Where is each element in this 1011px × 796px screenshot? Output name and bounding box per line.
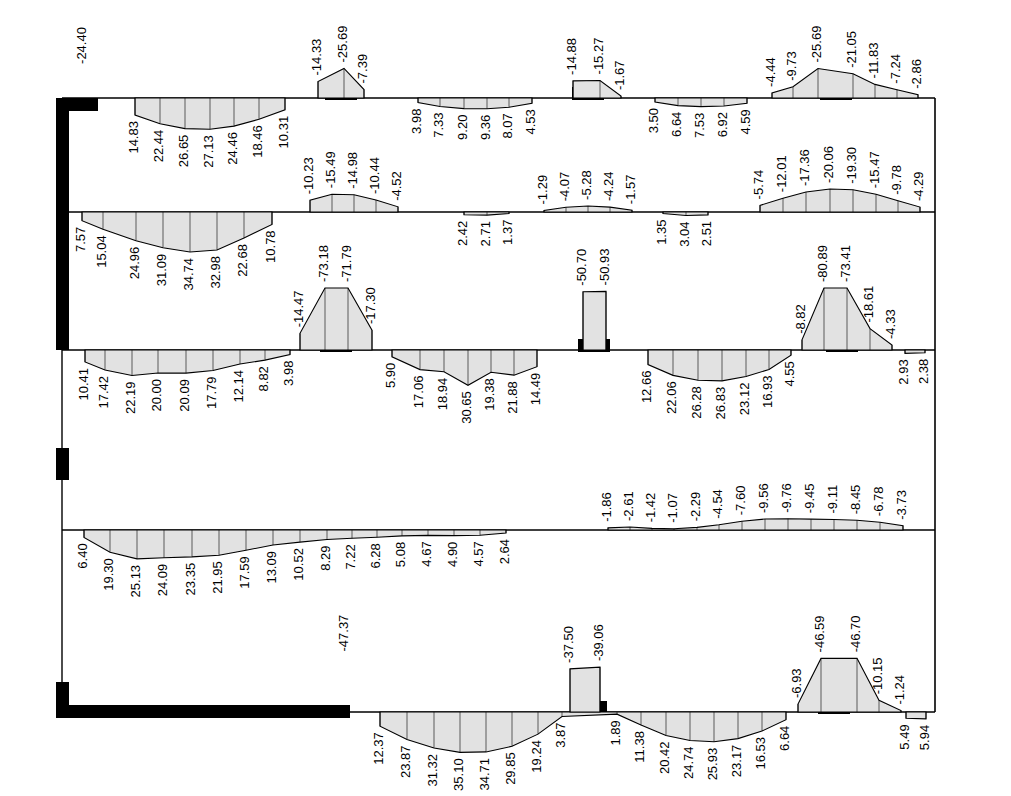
moment-value-label: -25.69 xyxy=(809,26,824,63)
moment-value-label: 22.68 xyxy=(235,244,250,277)
moment-value-label: 23.17 xyxy=(729,745,744,778)
moment-value-label: 23.35 xyxy=(183,563,198,596)
moment-value-label: -24.40 xyxy=(74,27,89,64)
moment-envelope xyxy=(464,212,509,215)
moment-value-label: -4.33 xyxy=(883,309,898,339)
moment-value-label: 12.66 xyxy=(639,371,654,404)
moment-value-label: -9.11 xyxy=(825,485,840,514)
moment-value-label: 18.94 xyxy=(435,378,450,411)
moment-value-label: -8.45 xyxy=(848,485,863,515)
moment-value-label: 10.78 xyxy=(263,230,278,263)
moment-value-label: -1.86 xyxy=(599,492,614,522)
moment-value-label: 4.53 xyxy=(523,109,538,134)
moment-value-label: -15.27 xyxy=(591,38,606,75)
moment-value-label: -14.98 xyxy=(345,152,360,189)
moment-value-label: -15.47 xyxy=(867,151,882,188)
moment-value-label: 7.53 xyxy=(692,113,707,138)
moment-value-label: 22.19 xyxy=(123,382,138,415)
moment-value-label: 20.09 xyxy=(177,379,192,412)
moment-value-label: 6.40 xyxy=(75,543,90,568)
moment-value-label: -2.29 xyxy=(688,492,703,522)
moment-value-label: 5.08 xyxy=(393,542,408,567)
moment-value-label: 12.37 xyxy=(371,732,386,765)
moment-value-label: -3.73 xyxy=(894,490,909,520)
moment-value-label: -4.29 xyxy=(911,171,926,201)
moment-value-label: 9.20 xyxy=(455,115,470,140)
moment-value-label: 4.67 xyxy=(419,541,434,566)
moment-value-label: 21.88 xyxy=(505,381,520,414)
moment-value-label: 31.32 xyxy=(425,754,440,787)
moment-value-label: 4.57 xyxy=(471,541,486,566)
moment-value-label: -9.56 xyxy=(756,483,771,513)
moment-value-label: -7.24 xyxy=(888,54,903,84)
moment-value-label: 20.00 xyxy=(149,379,164,412)
moment-value-label: -1.24 xyxy=(892,675,907,705)
moment-envelope xyxy=(798,658,901,712)
moment-value-label: -21.05 xyxy=(844,31,859,68)
moment-value-label: -11.83 xyxy=(866,42,881,78)
moment-value-label: 16.93 xyxy=(760,375,775,408)
moment-value-label: 5.49 xyxy=(897,724,912,749)
moment-value-label: -6.93 xyxy=(789,668,804,698)
moment-value-label: -50.70 xyxy=(574,249,589,286)
moment-value-label: 2.71 xyxy=(478,221,493,246)
moment-value-label: 17.06 xyxy=(411,376,426,409)
moment-value-label: -39.06 xyxy=(591,624,606,661)
moment-value-label: -4.24 xyxy=(601,171,616,201)
moment-value-label: -1.67 xyxy=(612,60,627,90)
moment-value-label: 5.90 xyxy=(383,363,398,388)
moment-value-label: 29.85 xyxy=(503,752,518,785)
moment-value-label: 24.46 xyxy=(225,132,240,165)
moment-value-label: 24.74 xyxy=(681,746,696,779)
moment-envelope xyxy=(300,288,372,350)
moment-value-label: -5.28 xyxy=(579,170,594,200)
moment-value-label: -6.78 xyxy=(871,487,886,517)
moment-value-label: -37.50 xyxy=(561,626,576,663)
moment-envelope xyxy=(905,350,925,353)
moment-value-label: -46.59 xyxy=(812,616,827,653)
moment-value-label: -18.61 xyxy=(861,286,876,323)
moment-value-label: -4.07 xyxy=(557,172,572,202)
moment-envelope xyxy=(583,291,606,350)
moment-value-label: 1.89 xyxy=(608,720,623,745)
moment-value-label: 14.49 xyxy=(528,373,543,406)
moment-value-label: 23.87 xyxy=(398,745,413,778)
moment-value-label: 19.38 xyxy=(482,378,497,411)
moment-value-label: 19.30 xyxy=(101,558,116,591)
moment-value-label: 8.29 xyxy=(318,546,333,571)
moment-value-label: -10.44 xyxy=(367,157,382,194)
moment-value-label: 3.98 xyxy=(281,361,296,386)
moment-value-label: -7.60 xyxy=(733,486,748,516)
moment-value-label: 4.55 xyxy=(782,361,797,386)
moment-value-label: -9.45 xyxy=(802,483,817,513)
moment-value-label: 17.42 xyxy=(96,376,111,409)
moment-value-label: -14.33 xyxy=(309,39,324,76)
moment-value-label: 3.87 xyxy=(553,722,568,747)
moment-value-label: 30.65 xyxy=(459,391,474,424)
moment-value-label: -15.49 xyxy=(323,151,338,188)
moment-value-label: 6.64 xyxy=(777,726,792,751)
moment-value-label: -47.37 xyxy=(336,615,351,652)
bmd-canvas: -24.40-14.33-25.69-7.39-14.88-15.27-1.67… xyxy=(0,0,1011,796)
moment-value-label: -1.07 xyxy=(665,493,680,523)
moment-value-label: 9.36 xyxy=(478,115,493,140)
moment-value-label: 23.12 xyxy=(737,383,752,416)
moment-value-label: -4.52 xyxy=(389,171,404,201)
moment-value-label: 3.98 xyxy=(409,109,424,134)
moment-value-label: 32.98 xyxy=(208,256,223,289)
moment-value-label: 27.13 xyxy=(201,135,216,168)
moment-value-label: -17.36 xyxy=(797,149,812,186)
moment-value-label: -73.18 xyxy=(316,245,331,282)
moment-value-label: 31.09 xyxy=(154,254,169,287)
moment-value-label: 13.09 xyxy=(264,551,279,584)
moment-value-label: -14.88 xyxy=(564,38,579,75)
moment-value-label: 26.83 xyxy=(713,387,728,420)
moment-value-label: 6.64 xyxy=(669,112,684,137)
moment-value-label: 21.95 xyxy=(210,561,225,594)
moment-value-label: -9.76 xyxy=(779,483,794,513)
moment-value-label: -7.39 xyxy=(355,54,370,84)
moment-value-label: -50.93 xyxy=(597,249,612,286)
moment-value-label: -20.06 xyxy=(821,146,836,183)
moment-value-label: 35.10 xyxy=(451,758,466,791)
moment-value-label: -8.82 xyxy=(793,304,808,334)
